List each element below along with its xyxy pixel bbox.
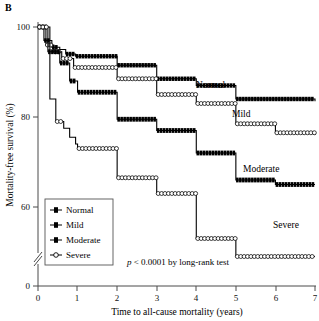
censor-marker [68,57,72,61]
censor-marker [187,77,190,81]
censor-marker [226,83,229,87]
censor-marker [226,151,229,156]
censor-marker [282,182,285,187]
censor-marker [103,54,106,58]
censor-marker [202,151,205,156]
censor-marker [141,117,144,122]
curve-path-mild [38,27,315,135]
censor-marker [291,182,294,187]
censor-marker [81,90,84,95]
x-tick-label-0: 0 [36,293,41,303]
censor-marker [106,54,109,58]
censor-marker [70,79,73,84]
censor-marker [302,97,305,101]
censor-marker [54,49,57,54]
censor-marker [305,97,308,101]
censor-marker [109,54,112,58]
censor-marker [141,63,144,67]
censor-marker [260,178,263,183]
censor-marker [239,178,242,183]
legend-label-severe: Severe [66,250,91,260]
censor-marker [239,97,242,101]
censor-marker [233,102,237,106]
censor-marker [120,63,123,67]
censor-marker [288,182,291,187]
censor-marker [135,117,138,122]
legend-marker-moderate-icon [54,237,58,243]
x-ticks: 0 1 2 3 4 5 6 7 [36,286,318,303]
censor-marker [97,54,100,58]
censor-marker [115,54,118,58]
series-annotation-moderate: Moderate [243,164,279,174]
censor-marker [275,97,278,101]
censor-marker [120,117,123,122]
censor-marker [108,90,111,95]
censor-marker [114,90,117,95]
censor-marker [284,97,287,101]
legend-marker-mild-icon [54,222,58,228]
censor-marker [87,90,90,95]
censor-marker [187,128,190,133]
x-tick-label-6: 6 [274,293,279,303]
censor-marker [175,128,178,133]
censor-marker [157,128,160,133]
censor-marker [169,77,172,81]
censor-marker [150,117,153,122]
censor-marker [163,128,166,133]
censor-marker [138,117,141,122]
censor-marker [153,63,156,67]
censor-marker [293,97,296,101]
censor-marker [269,178,272,183]
censor-marker [147,117,150,122]
censor-marker [144,63,147,67]
censor-marker [296,97,299,101]
censor-marker [166,77,169,81]
censor-marker [166,128,169,133]
censor-marker [55,45,58,49]
censor-marker [154,77,158,81]
censor-marker [129,117,132,122]
censor-marker [278,97,281,101]
censor-marker [269,97,272,101]
censor-marker [69,52,72,56]
x-tick-label-2: 2 [115,293,120,303]
censor-marker [94,54,97,58]
censor-marker [254,178,257,183]
series-moderate [38,25,315,187]
censor-marker [181,77,184,81]
censor-marker [59,120,63,124]
censor-marker [153,117,156,122]
censor-marker [208,151,211,156]
survival-plot: 100 80 60 0 0 1 2 3 4 5 6 7 Time to all-… [0,0,319,321]
censor-marker [126,117,129,122]
censor-marker [299,97,302,101]
censor-marker [178,128,181,133]
censor-marker [123,117,126,122]
censor-marker [281,97,284,101]
censor-marker [194,93,198,97]
censor-marker [93,90,96,95]
censor-marker [205,151,208,156]
censor-marker [78,90,81,95]
censor-marker [294,182,297,187]
censor-marker [220,151,223,156]
censor-marker [190,128,193,133]
censor-marker [169,128,172,133]
censor-marker [266,178,269,183]
censor-marker [154,176,158,180]
censor-marker [132,63,135,67]
legend-marker-severe-icon [54,253,59,258]
censor-marker [85,54,88,58]
censor-marker [312,182,315,187]
censor-marker [96,90,99,95]
censor-marker [144,117,147,122]
censor-marker [248,178,251,183]
censor-marker [251,97,254,101]
censor-marker [290,97,293,101]
censor-marker [272,178,275,183]
censor-marker [196,151,199,156]
censor-marker [248,97,251,101]
censor-marker [254,97,257,101]
kaplan-meier-figure: B 100 80 60 0 [0,0,319,321]
censor-marker [273,122,277,126]
